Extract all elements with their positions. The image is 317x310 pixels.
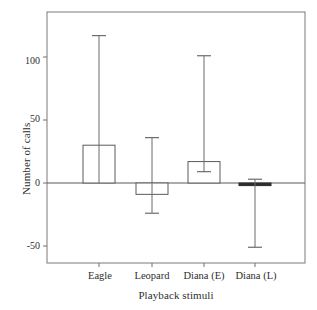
bar-group-eagle xyxy=(83,36,115,183)
plot-area xyxy=(0,0,317,310)
plot-frame xyxy=(47,12,305,263)
chart-figure: Number of calls 100 50 0 -50 Eagle Leopa… xyxy=(0,0,317,310)
axes-frame xyxy=(47,12,305,263)
bar-group-leopard xyxy=(136,138,168,214)
bar-group-diana-l xyxy=(239,179,271,247)
x-axis-ticks xyxy=(99,263,255,267)
y-axis-ticks xyxy=(43,57,47,246)
bar-group-diana-e xyxy=(188,56,220,183)
